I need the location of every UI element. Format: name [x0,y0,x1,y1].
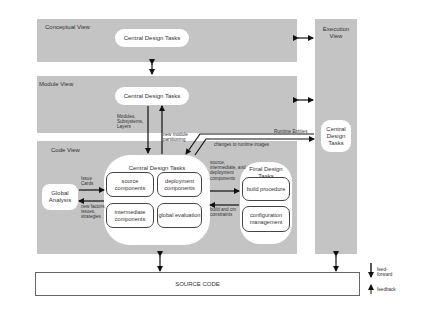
flow-arrows [0,0,431,312]
runtime-entities-arrow [186,134,314,154]
changes-runtime-arrow [195,139,314,155]
